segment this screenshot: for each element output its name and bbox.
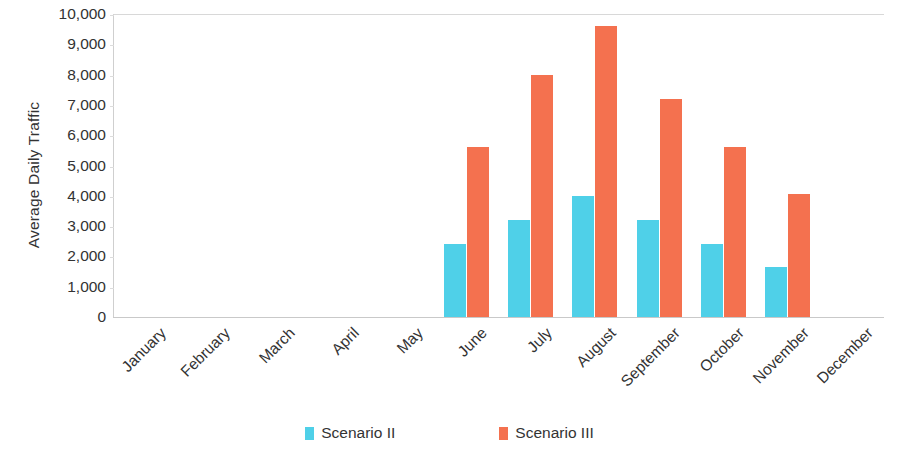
y-axis-tick-label: 5,000 [16,158,106,174]
bar-august-series-2[interactable] [595,26,617,317]
legend-swatch-icon [499,427,508,440]
y-axis-tick-label: 9,000 [16,37,106,53]
x-axis-tick-label: July [523,324,555,356]
x-axis-tick-label: March [255,324,298,367]
y-axis-tick-label: 2,000 [16,249,106,265]
bar-group [627,14,691,317]
x-axis-tick-label: December [813,324,876,387]
bar-group [499,14,563,317]
bar-group [113,14,177,317]
legend-label: Scenario II [321,424,395,442]
bar-july-series-1[interactable] [508,220,530,317]
legend-item[interactable]: Scenario III [499,424,593,442]
bar-november-series-1[interactable] [765,267,787,317]
bar-september-series-1[interactable] [637,220,659,317]
bar-august-series-1[interactable] [572,196,594,317]
bar-group [563,14,627,317]
chart-legend: Scenario IIScenario III [0,424,899,442]
bar-july-series-2[interactable] [531,75,553,317]
y-axis-tick-label: 6,000 [16,127,106,143]
legend-swatch-icon [305,427,314,440]
bar-september-series-2[interactable] [660,99,682,317]
bar-june-series-2[interactable] [467,147,489,317]
bar-group [370,14,434,317]
bar-november-series-2[interactable] [788,194,810,317]
y-axis-tick-labels: 10,0009,0008,0007,0006,0005,0004,0003,00… [16,0,106,330]
bar-group [242,14,306,317]
x-axis-tick-label: October [696,324,748,376]
bar-october-series-2[interactable] [724,147,746,317]
x-axis-tick-label: May [393,324,426,357]
x-axis-tick-label: September [618,324,684,390]
bar-group [434,14,498,317]
bar-group [756,14,820,317]
bars-layer [113,14,884,317]
y-axis-tick-label: 8,000 [16,67,106,83]
x-axis-tick-label: June [455,324,492,361]
x-axis-tick-label: August [573,324,620,371]
bar-group [306,14,370,317]
bar-october-series-1[interactable] [701,244,723,317]
y-axis-tick-label: 4,000 [16,188,106,204]
bar-chart: Average Daily Traffic 10,0009,0008,0007,… [0,0,899,451]
x-axis-line [113,317,884,318]
x-axis-tick-labels: JanuaryFebruaryMarchAprilMayJuneJulyAugu… [113,320,884,415]
x-axis-tick-label: November [749,324,812,387]
x-axis-tick-label: February [178,324,235,381]
y-axis-tick-label: 0 [16,309,106,325]
legend-item[interactable]: Scenario II [305,424,395,442]
bar-group [820,14,884,317]
bar-group [177,14,241,317]
y-axis-tick-label: 10,000 [16,6,106,22]
legend-label: Scenario III [515,424,593,442]
y-axis-tick-label: 1,000 [16,279,106,295]
x-axis-tick-label: January [118,324,170,376]
bar-june-series-1[interactable] [444,244,466,317]
y-axis-tick-label: 7,000 [16,97,106,113]
bar-group [691,14,755,317]
y-axis-tick-label: 3,000 [16,218,106,234]
x-axis-tick-label: April [328,324,363,359]
